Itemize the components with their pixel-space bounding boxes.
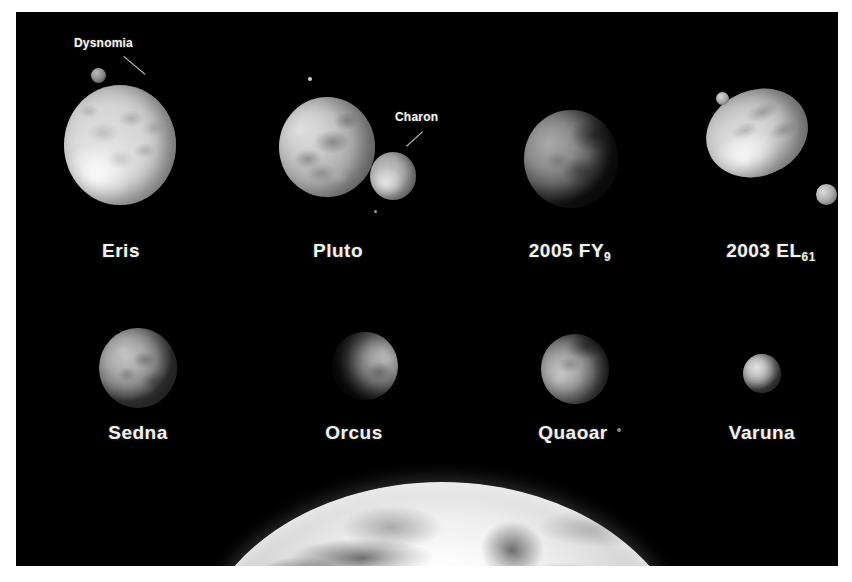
label-eris: Eris	[102, 240, 140, 262]
label-2003-el61-text: 2003 EL	[726, 240, 801, 261]
el61-surface-texture	[693, 74, 822, 193]
label-sedna-text: Sedna	[108, 422, 168, 443]
quaoar-surface-texture	[541, 334, 609, 404]
background-star	[308, 77, 312, 81]
label-quaoar: Quaoar	[538, 422, 608, 444]
sedna-surface-texture	[99, 328, 177, 408]
moon-charon	[370, 152, 416, 200]
callout-leader-charon	[406, 131, 423, 146]
planet-2003-el61	[693, 74, 822, 193]
label-2003-el61: 2003 EL61	[726, 240, 816, 262]
earth-limb-glow	[192, 482, 692, 566]
label-quaoar-text: Quaoar	[538, 422, 608, 443]
planet-pluto	[279, 97, 375, 197]
planet-quaoar	[541, 334, 609, 404]
earth-limb	[192, 482, 692, 566]
label-varuna: Varuna	[729, 422, 795, 444]
eris-surface-texture	[64, 85, 176, 205]
moon-dysnomia	[91, 68, 106, 83]
moon-2003-el61-inner	[716, 92, 729, 105]
callout-leader-dysnomia	[123, 56, 145, 75]
label-2005-fy9-text: 2005 FY	[529, 240, 604, 261]
background-star	[617, 428, 621, 432]
planet-orcus	[332, 332, 398, 400]
pluto-surface-texture	[279, 97, 375, 197]
moon-2003-el61-outer	[816, 184, 837, 205]
label-pluto: Pluto	[313, 240, 363, 262]
image-canvas: Dysnomia Eris Charon Pluto 2005 FY9	[0, 0, 852, 582]
background-star	[374, 210, 377, 213]
planet-eris	[64, 85, 176, 205]
planet-sedna	[99, 328, 177, 408]
label-orcus: Orcus	[325, 422, 382, 444]
planet-varuna	[743, 354, 781, 393]
callout-label-dysnomia: Dysnomia	[74, 36, 133, 50]
label-eris-text: Eris	[102, 240, 140, 261]
label-2005-fy9-subscript: 9	[604, 250, 611, 264]
space-background: Dysnomia Eris Charon Pluto 2005 FY9	[16, 12, 838, 566]
label-pluto-text: Pluto	[313, 240, 363, 261]
callout-label-charon: Charon	[395, 110, 438, 124]
label-orcus-text: Orcus	[325, 422, 382, 443]
fy9-surface-texture	[524, 110, 618, 208]
orcus-surface-texture	[332, 332, 398, 400]
label-2005-fy9: 2005 FY9	[529, 240, 612, 262]
label-2003-el61-subscript: 61	[801, 250, 815, 264]
label-sedna: Sedna	[108, 422, 168, 444]
planet-2005-fy9	[524, 110, 618, 208]
label-varuna-text: Varuna	[729, 422, 795, 443]
